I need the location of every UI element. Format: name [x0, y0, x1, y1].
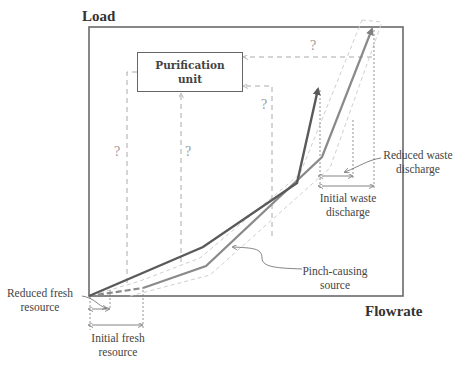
pinch-causing-source-label: Pinch-causing source: [300, 264, 370, 292]
initial-fresh-resource-label: Initial fresh resource: [86, 331, 150, 359]
purification-unit-line1: Purification: [155, 58, 224, 72]
y-axis-label: Load: [82, 8, 115, 25]
x-axis-label: Flowrate: [365, 303, 422, 320]
question-mark-middle: ?: [185, 144, 191, 160]
sink-composite-curve: [89, 89, 318, 296]
question-mark-right: ?: [261, 97, 267, 113]
initial-waste-discharge-label: Initial waste discharge: [316, 191, 380, 219]
reduced-waste-discharge-label: Reduced waste discharge: [378, 148, 458, 176]
purification-unit-box: Purification unit: [137, 52, 243, 92]
question-mark-top: ?: [310, 38, 316, 54]
reduced-fresh-resource-label: Reduced fresh resource: [6, 286, 74, 314]
question-mark-left: ?: [114, 144, 120, 160]
purification-unit-line2: unit: [155, 72, 224, 86]
